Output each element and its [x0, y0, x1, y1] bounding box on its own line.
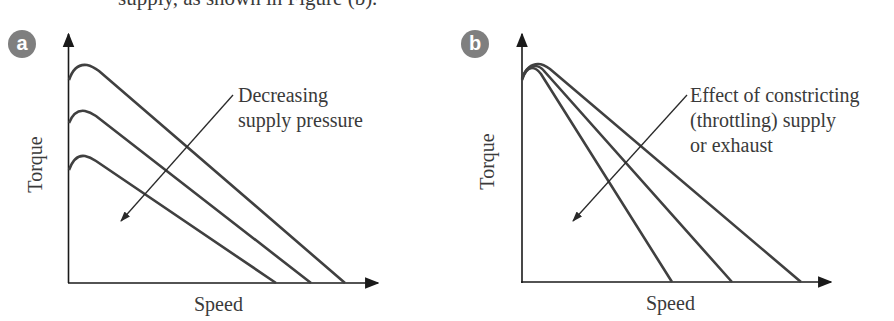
panel-b-annotation-line2: (throttling) supply	[690, 108, 836, 133]
panel-a-y-axis-label: Torque	[24, 133, 47, 197]
panel-a-x-axis-label: Speed	[194, 292, 243, 317]
panel-a-direction-arrow	[121, 95, 233, 221]
panel-b-annotation-line1: Effect of constricting	[690, 83, 860, 108]
panel-a-curve-mid	[69, 111, 311, 283]
panel-b-direction-arrow	[573, 95, 687, 221]
panel-b-plot	[521, 34, 831, 283]
panel-a-badge: a	[8, 30, 36, 58]
panel-b-y-axis-label: Torque	[476, 130, 499, 194]
panel-a-annotation-line1: Decreasing	[238, 83, 328, 108]
panel-b-curve-heavy	[522, 68, 672, 282]
panel-a-plot	[68, 34, 378, 283]
panel-a-annotation-line2: supply pressure	[238, 108, 363, 133]
panel-b-annotation-line3: or exhaust	[690, 133, 773, 158]
panel-b-x-axis-label: Speed	[646, 291, 695, 316]
figure-canvas	[0, 0, 894, 321]
panel-b-badge: b	[461, 30, 489, 58]
